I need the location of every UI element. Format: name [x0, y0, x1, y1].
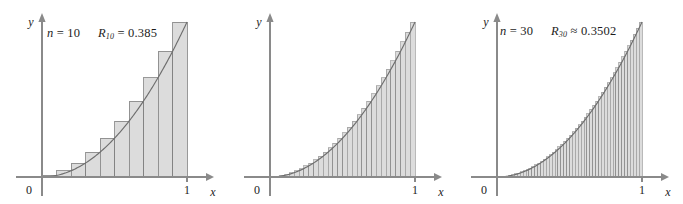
- riemann-bar: [396, 51, 401, 177]
- riemann-bar: [633, 34, 636, 177]
- riemann-bar: [546, 157, 549, 177]
- riemann-bar: [333, 143, 338, 177]
- riemann-bar: [607, 83, 610, 177]
- panel-n30: yx01 n = 30 R30 ≈ 0.3502: [228, 0, 456, 204]
- r-value: 0.385: [128, 26, 157, 40]
- riemann-bars: [503, 22, 642, 177]
- r-symbol: R: [98, 26, 106, 40]
- tick-label-origin: 0: [254, 183, 260, 197]
- riemann-bar: [619, 62, 622, 177]
- y-axis-label: y: [27, 15, 34, 29]
- y-axis-arrowhead: [266, 13, 273, 22]
- riemann-bar: [401, 42, 406, 177]
- riemann-bar: [100, 138, 115, 177]
- x-axis-label: x: [437, 185, 444, 199]
- annotation-n10: n = 10 R10 = 0.385: [47, 26, 157, 41]
- r-relation: =: [118, 26, 125, 40]
- tick-label-one: 1: [412, 183, 418, 197]
- y-axis-label: y: [482, 15, 489, 29]
- riemann-bar: [639, 22, 642, 177]
- riemann-bars: [275, 22, 415, 177]
- y-axis-label: y: [255, 15, 262, 29]
- panel-n10: yx01 n = 10 R10 = 0.385: [0, 0, 228, 204]
- riemann-bar: [628, 46, 631, 177]
- riemann-bar: [601, 92, 604, 177]
- riemann-bar: [570, 135, 573, 177]
- riemann-bar: [575, 128, 578, 177]
- riemann-bar: [567, 138, 570, 177]
- y-axis-arrowhead: [38, 13, 45, 22]
- riemann-bar: [590, 109, 593, 177]
- riemann-bar: [391, 61, 396, 177]
- riemann-bar: [625, 51, 628, 177]
- plot-n50: yx01: [455, 0, 683, 204]
- riemann-bar: [372, 94, 377, 177]
- riemann-bar: [376, 86, 381, 177]
- n-value: 10: [67, 26, 80, 40]
- x-axis-label: x: [664, 185, 671, 199]
- riemann-sum-figure: yx01 n = 10 R10 = 0.385 yx01 n = 30 R30 …: [0, 0, 683, 204]
- riemann-bar: [552, 152, 555, 177]
- riemann-bar: [630, 40, 633, 177]
- tick-label-origin: 0: [26, 183, 32, 197]
- riemann-bar: [610, 78, 613, 177]
- x-axis-arrowhead: [434, 173, 442, 181]
- riemann-bar: [599, 97, 602, 177]
- riemann-bar: [541, 161, 544, 177]
- riemann-bar: [636, 28, 639, 177]
- riemann-bar: [584, 117, 587, 177]
- riemann-bar: [86, 152, 101, 177]
- riemann-bar: [367, 101, 372, 177]
- riemann-bar: [362, 108, 367, 177]
- riemann-bar: [410, 22, 415, 177]
- tick-label-origin: 0: [481, 183, 487, 197]
- riemann-bar: [593, 105, 596, 177]
- riemann-bar: [616, 68, 619, 177]
- n-equals: =: [57, 26, 64, 40]
- tick-label-one: 1: [639, 183, 645, 197]
- riemann-bar: [558, 147, 561, 177]
- plot-n30: yx01: [228, 0, 456, 204]
- y-axis-arrowhead: [493, 13, 500, 22]
- riemann-bar: [561, 144, 564, 177]
- riemann-bar: [405, 32, 410, 177]
- n-symbol: n: [47, 26, 53, 40]
- riemann-bar: [564, 141, 567, 177]
- riemann-bar: [347, 127, 352, 177]
- riemann-bar: [357, 115, 362, 177]
- tick-label-one: 1: [184, 183, 190, 197]
- riemann-bar: [144, 78, 159, 177]
- riemann-bar: [555, 150, 558, 177]
- riemann-bar: [338, 138, 343, 177]
- riemann-bar: [343, 133, 348, 177]
- riemann-bar: [581, 121, 584, 177]
- riemann-bar: [386, 69, 391, 177]
- riemann-bars: [42, 22, 187, 177]
- riemann-bar: [572, 132, 575, 177]
- r-subscript: 10: [106, 32, 114, 41]
- riemann-bar: [173, 22, 188, 177]
- riemann-bar: [543, 159, 546, 177]
- x-axis-arrowhead: [661, 173, 669, 181]
- panel-n50: yx01 n = 50 R50 ≈ 0.3434: [455, 0, 683, 204]
- riemann-bar: [549, 155, 552, 177]
- riemann-bar: [604, 87, 607, 177]
- riemann-bar: [352, 121, 357, 177]
- riemann-bar: [381, 78, 386, 177]
- riemann-bar: [622, 57, 625, 177]
- riemann-bar: [578, 125, 581, 177]
- x-axis-label: x: [209, 185, 216, 199]
- riemann-bar: [613, 73, 616, 177]
- riemann-bar: [596, 101, 599, 177]
- x-axis-arrowhead: [206, 173, 214, 181]
- riemann-bar: [158, 51, 173, 177]
- riemann-bar: [587, 114, 590, 177]
